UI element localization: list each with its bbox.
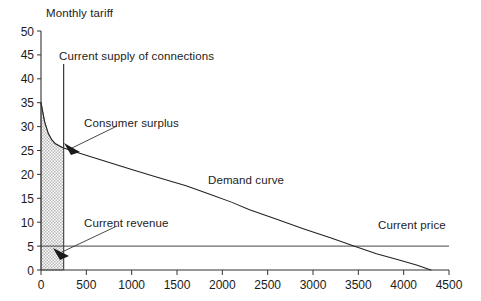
x-tick-label: 3000: [300, 278, 327, 292]
annotation-current-supply: Current supply of connections: [59, 50, 214, 62]
axis-label-monthly-tariff: Monthly tariff: [46, 7, 113, 19]
x-tick-label: 4500: [436, 278, 463, 292]
y-tick-label: 35: [21, 96, 35, 110]
x-tick-label: 2500: [254, 278, 281, 292]
annotation-demand-curve: Demand curve: [208, 174, 284, 186]
annotation-current-price: Current price: [378, 219, 446, 231]
chart-canvas: 05101520253035404550 0500100015002000250…: [0, 0, 481, 301]
y-tick-label: 10: [21, 216, 35, 230]
x-tick-label: 1500: [164, 278, 191, 292]
y-tick-label: 40: [21, 72, 35, 86]
x-tick-label: 4000: [390, 278, 417, 292]
x-tick-label: 0: [38, 278, 45, 292]
chart-figure: 05101520253035404550 0500100015002000250…: [0, 0, 481, 301]
x-axis-ticks: [41, 270, 449, 275]
x-tick-label: 500: [76, 278, 96, 292]
annotation-consumer-surplus: Consumer surplus: [84, 117, 179, 129]
y-axis-ticks: [37, 31, 41, 270]
x-axis-tick-labels: 050010001500200025003000350040004500: [38, 278, 463, 292]
x-tick-label: 1000: [118, 278, 145, 292]
annotation-current-revenue: Current revenue: [84, 217, 169, 229]
y-tick-label: 5: [27, 240, 34, 254]
y-tick-label: 30: [21, 120, 35, 134]
y-tick-label: 50: [21, 25, 35, 39]
y-tick-label: 0: [27, 264, 34, 278]
y-axis-tick-labels: 05101520253035404550: [21, 25, 35, 278]
x-tick-label: 2000: [209, 278, 236, 292]
leader-consumer-surplus: [72, 126, 117, 148]
y-tick-label: 25: [21, 144, 35, 158]
leader-current-revenue: [62, 226, 117, 252]
y-tick-label: 15: [21, 192, 35, 206]
shaded-region-consumer-surplus: [41, 103, 64, 270]
x-tick-label: 3500: [345, 278, 372, 292]
y-tick-label: 45: [21, 48, 35, 62]
y-tick-label: 20: [21, 168, 35, 182]
